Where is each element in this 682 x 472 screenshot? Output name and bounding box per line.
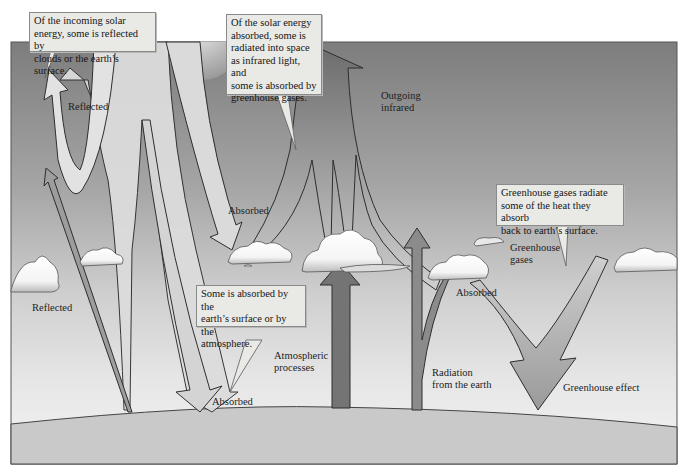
callout-line: Of the incoming solar: [34, 15, 151, 28]
label-outgoing-infrared: Outgoing infrared: [381, 90, 421, 114]
label-absorbed-ground: Absorbed: [212, 396, 253, 408]
callout-line: earth’s surface or by the: [201, 313, 301, 338]
label-line: Greenhouse: [510, 242, 560, 254]
label-reflected-left: Reflected: [32, 302, 72, 314]
callout-absorbed-radiated: Of the solar energy absorbed, some is ra…: [226, 14, 322, 95]
label-line: processes: [274, 362, 328, 374]
label-atmospheric-processes: Atmospheric processes: [274, 350, 328, 374]
callout-line: absorbed, some is: [231, 30, 317, 43]
callout-line: radiated into space: [231, 42, 317, 55]
label-absorbed-cloud: Absorbed: [228, 205, 269, 217]
callout-line: energy, some is reflected by: [34, 28, 151, 53]
label-radiation-from-earth: Radiation from the earth: [432, 367, 491, 391]
callout-incoming-solar: Of the incoming solar energy, some is re…: [29, 12, 156, 52]
callout-line: back to earth’s surface.: [501, 225, 619, 238]
label-line: Radiation: [432, 367, 491, 379]
label-greenhouse-effect: Greenhouse effect: [563, 382, 639, 394]
label-line: Outgoing: [381, 90, 421, 102]
label-line: Atmospheric: [274, 350, 328, 362]
callout-line: Of the solar energy: [231, 17, 317, 30]
callout-line: clouds or the earth’s surface.: [34, 53, 151, 78]
label-line: from the earth: [432, 379, 491, 391]
callout-line: atmosphere.: [201, 338, 301, 351]
callout-line: Some is absorbed by the: [201, 288, 301, 313]
label-reflected-top: Reflected: [68, 101, 108, 113]
label-greenhouse-gases: Greenhouse gases: [510, 242, 560, 266]
callout-line: Greenhouse gases radiate: [501, 187, 619, 200]
label-line: infrared: [381, 102, 421, 114]
callout-line: some is absorbed by: [231, 80, 317, 93]
label-absorbed-right-cloud: Absorbed: [456, 287, 497, 299]
callout-line: some of the heat they absorb: [501, 200, 619, 225]
callout-line: as infrared light, and: [231, 55, 317, 80]
callout-line: greenhouse gases.: [231, 92, 317, 105]
label-line: gases: [510, 254, 560, 266]
greenhouse-diagram: Of the incoming solar energy, some is re…: [0, 0, 682, 472]
callout-greenhouse-radiate: Greenhouse gases radiate some of the hea…: [496, 184, 624, 226]
callout-surface-atmosphere: Some is absorbed by the earth’s surface …: [196, 285, 306, 327]
